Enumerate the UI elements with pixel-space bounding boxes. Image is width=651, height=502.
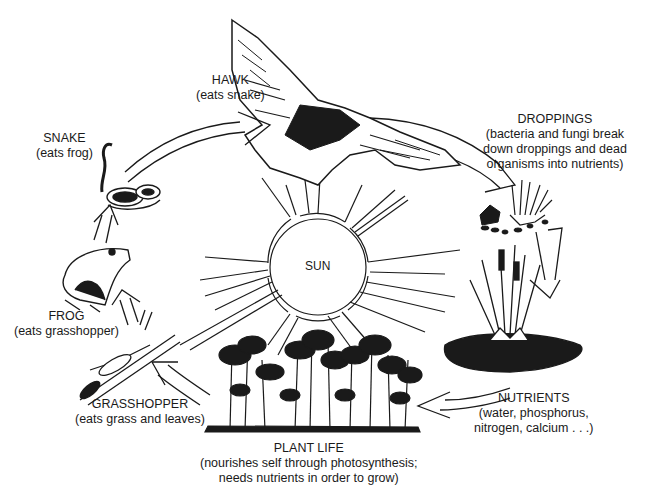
frog-label: FROG (eats grasshopper) [14,309,119,339]
frog-desc: (eats grasshopper) [14,324,119,339]
hawk-title: HAWK [196,73,265,88]
pond-droppings-illustration [480,180,552,234]
hawk-illustration [232,20,460,185]
grasshopper-title: GRASSHOPPER [75,397,205,412]
nutrients-desc-1: (water, phosphorus, [474,406,594,421]
nutrients-label: NUTRIENTS (water, phosphorus, nitrogen, … [474,391,594,436]
grasshopper-label: GRASSHOPPER (eats grass and leaves) [75,397,205,427]
plant-life-desc-1: (nourishes self through photosynthesis; [200,456,418,471]
frog-illustration [63,249,130,312]
plant-life-title: PLANT LIFE [200,441,418,456]
frog-title: FROG [14,309,119,324]
arrow-droppings-to-nutrients [530,228,562,298]
arrow-snake-to-hawk [125,112,270,182]
hawk-label: HAWK (eats snake) [196,73,265,103]
sun-label: SUN [305,259,330,273]
plants-illustration [205,330,422,432]
snake-illustration [102,144,160,209]
nutrients-desc-2: nitrogen, calcium . . .) [474,421,594,436]
snake-title: SNAKE [36,131,93,146]
nutrients-title: NUTRIENTS [474,391,594,406]
snake-label: SNAKE (eats frog) [36,131,93,161]
cattail-pond-illustration [444,245,581,372]
droppings-desc-3: organisms into nutrients) [483,157,627,172]
droppings-label: DROPPINGS (bacteria and fungi break down… [483,112,627,172]
plant-life-label: PLANT LIFE (nourishes self through photo… [200,441,418,486]
plant-life-desc-2: needs nutrients in order to grow) [200,471,418,486]
grasshopper-desc: (eats grass and leaves) [75,412,205,427]
hawk-desc: (eats snake) [196,88,265,103]
droppings-desc-1: (bacteria and fungi break [483,127,627,142]
droppings-desc-2: down droppings and dead [483,142,627,157]
droppings-title: DROPPINGS [483,112,627,127]
arrow-frog-to-snake [94,205,118,243]
snake-desc: (eats frog) [36,146,93,161]
